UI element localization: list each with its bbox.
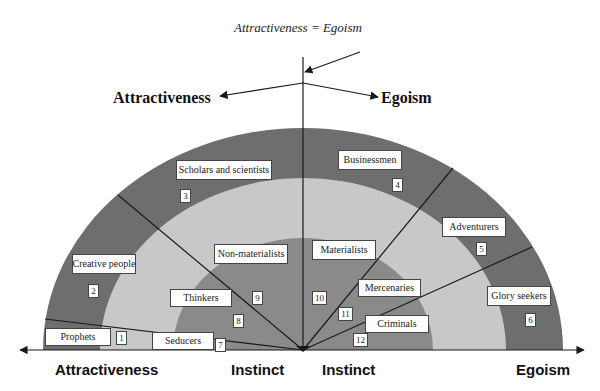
segment-label-mercenaries: Mercenaries — [358, 279, 421, 297]
top-branch-left-arrow — [220, 83, 303, 96]
segment-number-2: 2 — [88, 284, 99, 298]
attractiveness-egoism-diagram: Attractiveness = Egoism Attractiveness E… — [0, 0, 600, 391]
segment-number-11: 11 — [338, 307, 353, 321]
axis-label-egoism: Egoism — [516, 361, 570, 378]
segment-label-businessmen: Businessmen — [338, 150, 402, 170]
top-branch-right-arrow — [303, 83, 378, 97]
segment-label-creative-people: Creative people — [72, 254, 136, 274]
segment-label-thinkers: Thinkers — [170, 289, 232, 307]
segment-label-adventurers: Adventurers — [442, 217, 506, 237]
caption-pointer-arrow — [305, 52, 360, 72]
segment-number-3: 3 — [180, 189, 191, 203]
segment-label-prophets: Prophets — [45, 328, 111, 346]
segment-label-non-materialists: Non-materialists — [214, 244, 288, 264]
segment-label-seducers: Seducers — [152, 332, 214, 350]
segment-number-5: 5 — [476, 242, 487, 256]
segment-label-scholars-and-scientists: Scholars and scientists — [176, 160, 272, 180]
top-label-egoism: Egoism — [381, 89, 432, 107]
segment-label-criminals: Criminals — [365, 315, 429, 333]
segment-number-12: 12 — [353, 333, 368, 347]
segment-label-materialists: Materialists — [312, 240, 376, 260]
equality-caption: Attractiveness = Egoism — [234, 20, 362, 36]
axis-label-attractiveness: Attractiveness — [55, 361, 158, 378]
segment-number-8: 8 — [233, 314, 244, 328]
segment-number-1: 1 — [116, 331, 127, 345]
axis-label-instinct-right: Instinct — [322, 361, 375, 378]
segment-number-4: 4 — [392, 178, 403, 192]
segment-number-6: 6 — [525, 313, 536, 327]
segment-number-7: 7 — [215, 338, 226, 352]
axis-label-instinct-left: Instinct — [231, 361, 284, 378]
segment-label-glory-seekers: Glory seekers — [487, 286, 551, 306]
top-label-attractiveness: Attractiveness — [113, 89, 211, 107]
segment-number-10: 10 — [312, 291, 327, 305]
segment-number-9: 9 — [252, 291, 263, 305]
